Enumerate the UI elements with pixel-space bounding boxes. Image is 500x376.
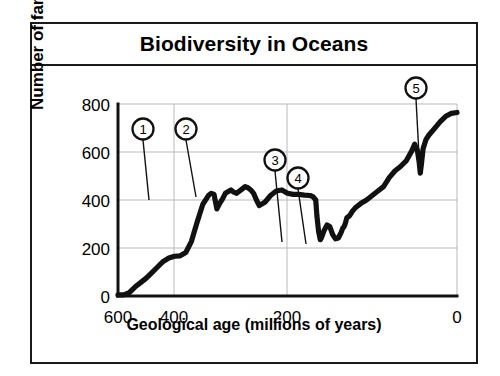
leader-line-3 <box>275 171 282 242</box>
plot-area: Number of families 800 <box>32 66 476 364</box>
title-band: Biodiversity in Oceans <box>32 24 476 66</box>
marker-label-2: 2 <box>182 122 189 137</box>
marker-label-5: 5 <box>412 81 419 96</box>
y-tick-400: 400 <box>82 192 110 211</box>
annotation-1: 1 <box>133 119 154 201</box>
leader-line-1 <box>143 140 149 200</box>
y-tick-labels: 800 600 400 200 0 <box>82 96 110 307</box>
chart-figure: Biodiversity in Oceans Number of familie… <box>30 22 478 364</box>
leader-line-2 <box>186 140 196 197</box>
page-title: Biodiversity in Oceans <box>140 32 369 56</box>
x-axis-label: Geological age (millions of years) <box>32 316 476 334</box>
gridlines <box>118 104 457 296</box>
annotation-markers: 1 2 3 4 <box>133 78 427 245</box>
annotation-4: 4 <box>288 168 309 245</box>
y-tick-0: 0 <box>101 288 110 307</box>
marker-label-1: 1 <box>139 122 146 137</box>
y-tick-200: 200 <box>82 240 110 259</box>
annotation-2: 2 <box>176 119 197 198</box>
y-tick-600: 600 <box>82 144 110 163</box>
marker-label-3: 3 <box>271 153 278 168</box>
marker-label-4: 4 <box>294 171 301 186</box>
y-tick-800: 800 <box>82 96 110 115</box>
